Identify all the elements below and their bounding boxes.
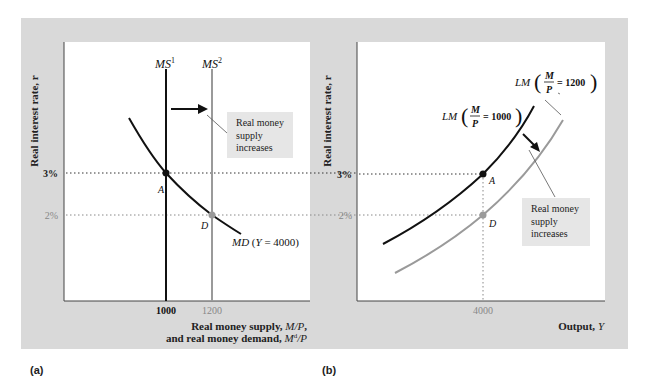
svg-text:= 1000: = 1000 <box>483 111 511 122</box>
panel-a-tick-1200: 1200 <box>202 305 222 316</box>
svg-text:): ) <box>515 103 522 128</box>
panel-b-tick-2pct: 2% <box>339 210 352 221</box>
svg-text:M: M <box>544 70 555 81</box>
svg-text:P: P <box>472 118 479 129</box>
panel-b-tick-3pct: 3% <box>337 169 352 180</box>
point-a-marker-b <box>480 171 487 178</box>
annotation-a-line2: supply <box>236 130 263 141</box>
svg-text:LM: LM <box>514 76 531 88</box>
annotation-a-line1: Real money <box>236 117 284 128</box>
svg-text:(: ( <box>461 103 468 128</box>
annotation-a-line3: increases <box>236 142 273 153</box>
md-label: MD (Y = 4000) <box>231 236 299 249</box>
panel-a-tick-1000: 1000 <box>156 305 176 316</box>
panel-a-plot-area <box>64 42 310 301</box>
svg-text:LM: LM <box>441 110 458 122</box>
svg-text:= 1200: = 1200 <box>557 77 585 88</box>
panel-b-tick-4000: 4000 <box>473 305 493 316</box>
panel-a-tick-2pct: 2% <box>45 210 58 221</box>
panel-b-ylabel: Real interest rate, r <box>321 75 333 167</box>
point-a-label: A <box>157 184 165 195</box>
point-d-label-b: D <box>488 218 497 229</box>
point-a-marker <box>163 170 170 177</box>
point-d-marker <box>209 212 216 219</box>
panel-a-tick-3pct: 3% <box>43 168 58 179</box>
figure: Real interest rate, r MS1 MS2 Real money… <box>0 0 649 388</box>
panel-b-tag: (b) <box>322 364 336 376</box>
svg-text:(: ( <box>534 69 541 94</box>
svg-text:P: P <box>546 84 553 95</box>
panel-b-xlabel: Output, Y <box>558 320 606 332</box>
panel-a-xlabel-line2: and real money demand, Md/P <box>166 332 307 344</box>
svg-text:): ) <box>590 69 597 94</box>
point-d-label: D <box>200 220 209 231</box>
panel-a-tag: (a) <box>30 364 44 376</box>
annotation-b-line2: supply <box>531 216 558 227</box>
svg-text:M: M <box>470 104 481 115</box>
panel-a-xlabel-line1: Real money supply, M/P, <box>191 320 307 332</box>
annotation-b-line1: Real money <box>531 203 579 214</box>
point-d-marker-b <box>480 212 487 219</box>
annotation-b-line3: increases <box>531 228 568 239</box>
panel-a-ylabel: Real interest rate, r <box>28 75 40 167</box>
point-a-label-b: A <box>488 175 496 186</box>
